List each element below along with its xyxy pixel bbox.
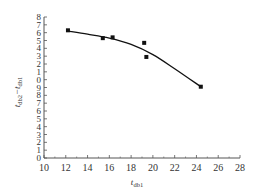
x-axis-title: tdb1: [131, 177, 143, 188]
x-tick-label: 26: [213, 162, 223, 173]
data-points: [66, 28, 203, 88]
x-tick-label: 14: [83, 162, 93, 173]
y-axis-ticks: 0123456789012345678: [37, 12, 48, 163]
data-point-marker: [111, 35, 115, 39]
y-tick-label: 8: [37, 12, 42, 22]
chart: 0123456789012345678 10121416182022242628…: [0, 0, 259, 196]
data-point-marker: [142, 41, 146, 45]
axes: [44, 17, 240, 158]
x-tick-label: 22: [170, 162, 180, 173]
data-point-marker: [101, 36, 105, 40]
x-tick-label: 28: [235, 162, 245, 173]
y-axis-title: tdb2−tdb1: [12, 77, 23, 108]
data-point-marker: [144, 55, 148, 59]
x-tick-label: 20: [148, 162, 158, 173]
x-tick-label: 12: [61, 162, 71, 173]
fitted-curve: [68, 31, 201, 87]
x-tick-label: 24: [191, 162, 201, 173]
x-tick-label: 10: [39, 162, 49, 173]
data-point-marker: [66, 28, 70, 32]
x-tick-label: 18: [126, 162, 136, 173]
data-point-marker: [199, 85, 203, 89]
x-tick-label: 16: [104, 162, 114, 173]
